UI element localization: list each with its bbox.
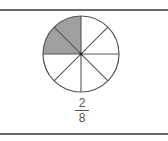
bottom-border-line (0, 133, 168, 135)
fraction-label: 2 8 (70, 97, 94, 124)
denominator: 8 (70, 112, 94, 124)
numerator: 2 (70, 97, 94, 109)
center-dot (80, 53, 83, 56)
